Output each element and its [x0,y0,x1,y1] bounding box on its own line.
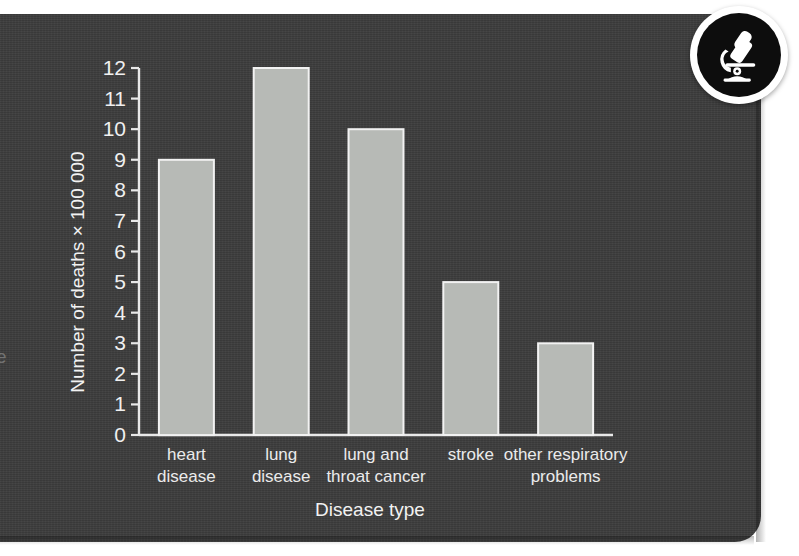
y-tick-label: 2 [114,362,126,385]
x-tick-label: disease [157,467,216,486]
y-axis: 0123456789101112 [103,56,139,446]
x-tick-label: lung [265,445,297,464]
microscope-badge [690,6,788,104]
y-tick-label: 4 [114,301,126,324]
chart-page: e 0123456789101112 heartdiseaselungdisea… [0,0,799,556]
y-tick-label: 12 [103,56,126,79]
bar-lung-and-throat-cancer [349,129,404,435]
y-tick-label: 0 [114,423,126,446]
y-tick-label: 3 [114,331,126,354]
y-tick-label: 9 [114,148,126,171]
x-tick-label: stroke [448,445,494,464]
x-tick-label: heart [167,445,206,464]
y-tick-label: 6 [114,240,126,263]
y-tick-label: 11 [104,87,126,110]
y-tick-label: 5 [114,270,126,293]
x-tick-label: disease [252,467,311,486]
bar-heart-disease [159,160,214,435]
y-axis-title: Number of deaths × 100 000 [67,151,88,392]
x-tick-label: problems [531,467,601,486]
category-labels: heartdiseaselungdiseaselung andthroat ca… [157,445,628,486]
x-tick-label: throat cancer [326,467,426,486]
microscope-icon [697,13,781,97]
y-tick-label: 8 [114,178,126,201]
bar-stroke [443,282,498,435]
bar-other-respiratory-problems [538,343,593,435]
x-tick-label: other respiratory [504,445,628,464]
bars-series [159,68,593,435]
y-tick-label: 1 [114,392,126,415]
x-tick-label: lung and [343,445,408,464]
y-tick-label: 10 [103,117,126,140]
x-axis-title: Disease type [315,499,425,520]
bar-lung-disease [254,68,309,435]
y-tick-label: 7 [114,209,126,232]
bar-chart: 0123456789101112 heartdiseaselungdisease… [0,14,767,542]
